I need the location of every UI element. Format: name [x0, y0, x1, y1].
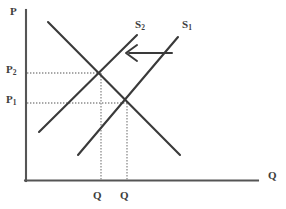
quantity-tick-q2-text: Q: [93, 189, 102, 201]
price-tick-p2-subscript: 2: [13, 68, 17, 77]
axes-group: [25, 10, 258, 181]
y-axis-label: P: [10, 6, 17, 17]
supply-curve-s1-label-subscript: 1: [188, 23, 192, 32]
supply-curve-s2: [39, 35, 137, 132]
quantity-tick-q1: Q: [120, 190, 129, 201]
quantity-tick-q2: Q: [93, 190, 102, 201]
quantity-tick-q1-text: Q: [120, 189, 129, 201]
supply-curve-s1-label: S1: [182, 19, 192, 30]
shift-arrow: [126, 45, 172, 61]
price-tick-p1-text: P: [6, 93, 13, 105]
x-axis-label: Q: [268, 170, 277, 181]
supply-demand-diagram: P Q S2 S1 P2 P1 Q Q: [0, 0, 286, 209]
price-tick-p1: P1: [6, 94, 16, 105]
price-tick-p1-subscript: 1: [13, 98, 17, 107]
supply-curve-s2-label-subscript: 2: [141, 23, 145, 32]
price-tick-p2-text: P: [6, 63, 13, 75]
guide-lines-group: [27, 73, 127, 180]
supply-curve-s2-label: S2: [135, 19, 145, 30]
curves-group: [39, 22, 180, 155]
demand-curve: [48, 22, 180, 155]
price-tick-p2: P2: [6, 64, 16, 75]
